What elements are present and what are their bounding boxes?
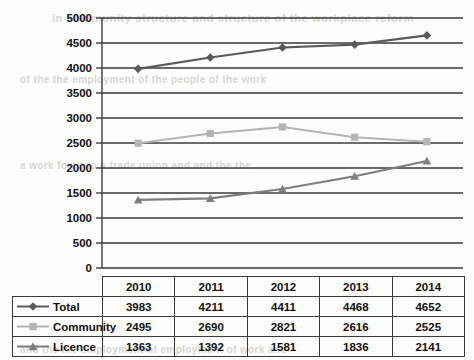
data-point-total-2013: [350, 40, 359, 49]
legend-entry-community: Community: [13, 317, 103, 337]
cell-licence-2010: 1363: [103, 337, 175, 357]
table-row: Community 2495 2690 2821 2616 2525: [13, 317, 465, 337]
column-header-2011: 2011: [175, 277, 247, 297]
cell-community-2013: 2616: [320, 317, 392, 337]
column-header-2010: 2010: [103, 277, 175, 297]
diamond-marker-icon: [16, 301, 50, 312]
y-tick-label: 500: [73, 237, 92, 249]
cell-licence-2014: 2141: [392, 337, 464, 357]
data-series-layer: [134, 31, 431, 203]
legend-label-licence: Licence: [53, 341, 96, 353]
column-header-2014: 2014: [392, 277, 464, 297]
series-line-licence: [138, 161, 427, 200]
cell-community-2011: 2690: [175, 317, 247, 337]
data-point-community-2014: [423, 138, 430, 145]
legend-label-community: Community: [53, 321, 116, 333]
legend-label-total: Total: [53, 301, 80, 313]
data-point-community-2010: [135, 140, 142, 147]
y-tick-label: 1500: [66, 187, 92, 199]
data-point-total-2011: [206, 53, 215, 62]
y-tick-label: 3000: [66, 112, 92, 124]
cell-licence-2011: 1392: [175, 337, 247, 357]
column-header-2012: 2012: [247, 277, 319, 297]
y-tick-label: 2500: [66, 137, 92, 149]
y-tick-label: 0: [86, 262, 92, 274]
data-point-community-2011: [207, 130, 214, 137]
data-point-community-2013: [351, 134, 358, 141]
y-tick-label: 4000: [66, 62, 92, 74]
y-tick-label: 5000: [66, 12, 92, 24]
cell-total-2012: 4411: [247, 297, 319, 317]
triangle-marker-icon: [16, 341, 50, 352]
data-point-total-2014: [423, 31, 432, 40]
cell-total-2013: 4468: [320, 297, 392, 317]
data-point-total-2012: [278, 43, 287, 52]
cell-total-2011: 4211: [175, 297, 247, 317]
square-marker-icon: [16, 321, 50, 332]
column-header-2013: 2013: [320, 277, 392, 297]
table-corner-cell: [13, 277, 103, 297]
data-point-total-2010: [134, 65, 143, 74]
chart-data-table: 2010 2011 2012 2013 2014 Total 3983: [12, 276, 465, 357]
y-tick-label: 3500: [66, 87, 92, 99]
table-row: Licence 1363 1392 1581 1836 2141: [13, 337, 465, 357]
table-header-row: 2010 2011 2012 2013 2014: [13, 277, 465, 297]
table-row: Total 3983 4211 4411 4468 4652: [13, 297, 465, 317]
legend-entry-licence: Licence: [13, 337, 103, 357]
cell-community-2014: 2525: [392, 317, 464, 337]
series-line-total: [138, 35, 427, 68]
cell-licence-2012: 1581: [247, 337, 319, 357]
cell-community-2012: 2821: [247, 317, 319, 337]
y-axis: [96, 18, 102, 268]
y-tick-label: 1000: [66, 212, 92, 224]
cell-total-2010: 3983: [103, 297, 175, 317]
data-point-community-2012: [279, 123, 286, 130]
legend-entry-total: Total: [13, 297, 103, 317]
cell-licence-2013: 1836: [320, 337, 392, 357]
y-axis-tick-labels: 5000 4500 4000 3500 3000 2500 2000 1500 …: [66, 12, 92, 274]
series-total: [134, 31, 431, 73]
cell-total-2014: 4652: [392, 297, 464, 317]
series-licence: [134, 157, 431, 204]
y-tick-label: 4500: [66, 37, 92, 49]
y-tick-label: 2000: [66, 162, 92, 174]
chart-figure: in community structure and structure of …: [0, 0, 474, 360]
gridlines: [102, 18, 463, 268]
